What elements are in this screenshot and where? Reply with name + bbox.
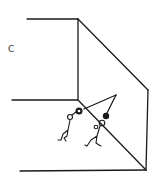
side-wall-floor-edge — [78, 100, 146, 170]
player-body — [85, 126, 101, 146]
side-wall-top-edge — [78, 19, 148, 90]
side-wall-right-edge — [146, 90, 148, 170]
player-hand — [94, 125, 98, 129]
player-one — [58, 108, 83, 142]
bottom-floor-line — [20, 170, 146, 171]
player-body — [58, 112, 76, 141]
ball-icon — [103, 113, 109, 119]
trajectory-segment — [84, 95, 116, 109]
player-two — [85, 113, 109, 146]
court-diagram — [0, 0, 164, 183]
